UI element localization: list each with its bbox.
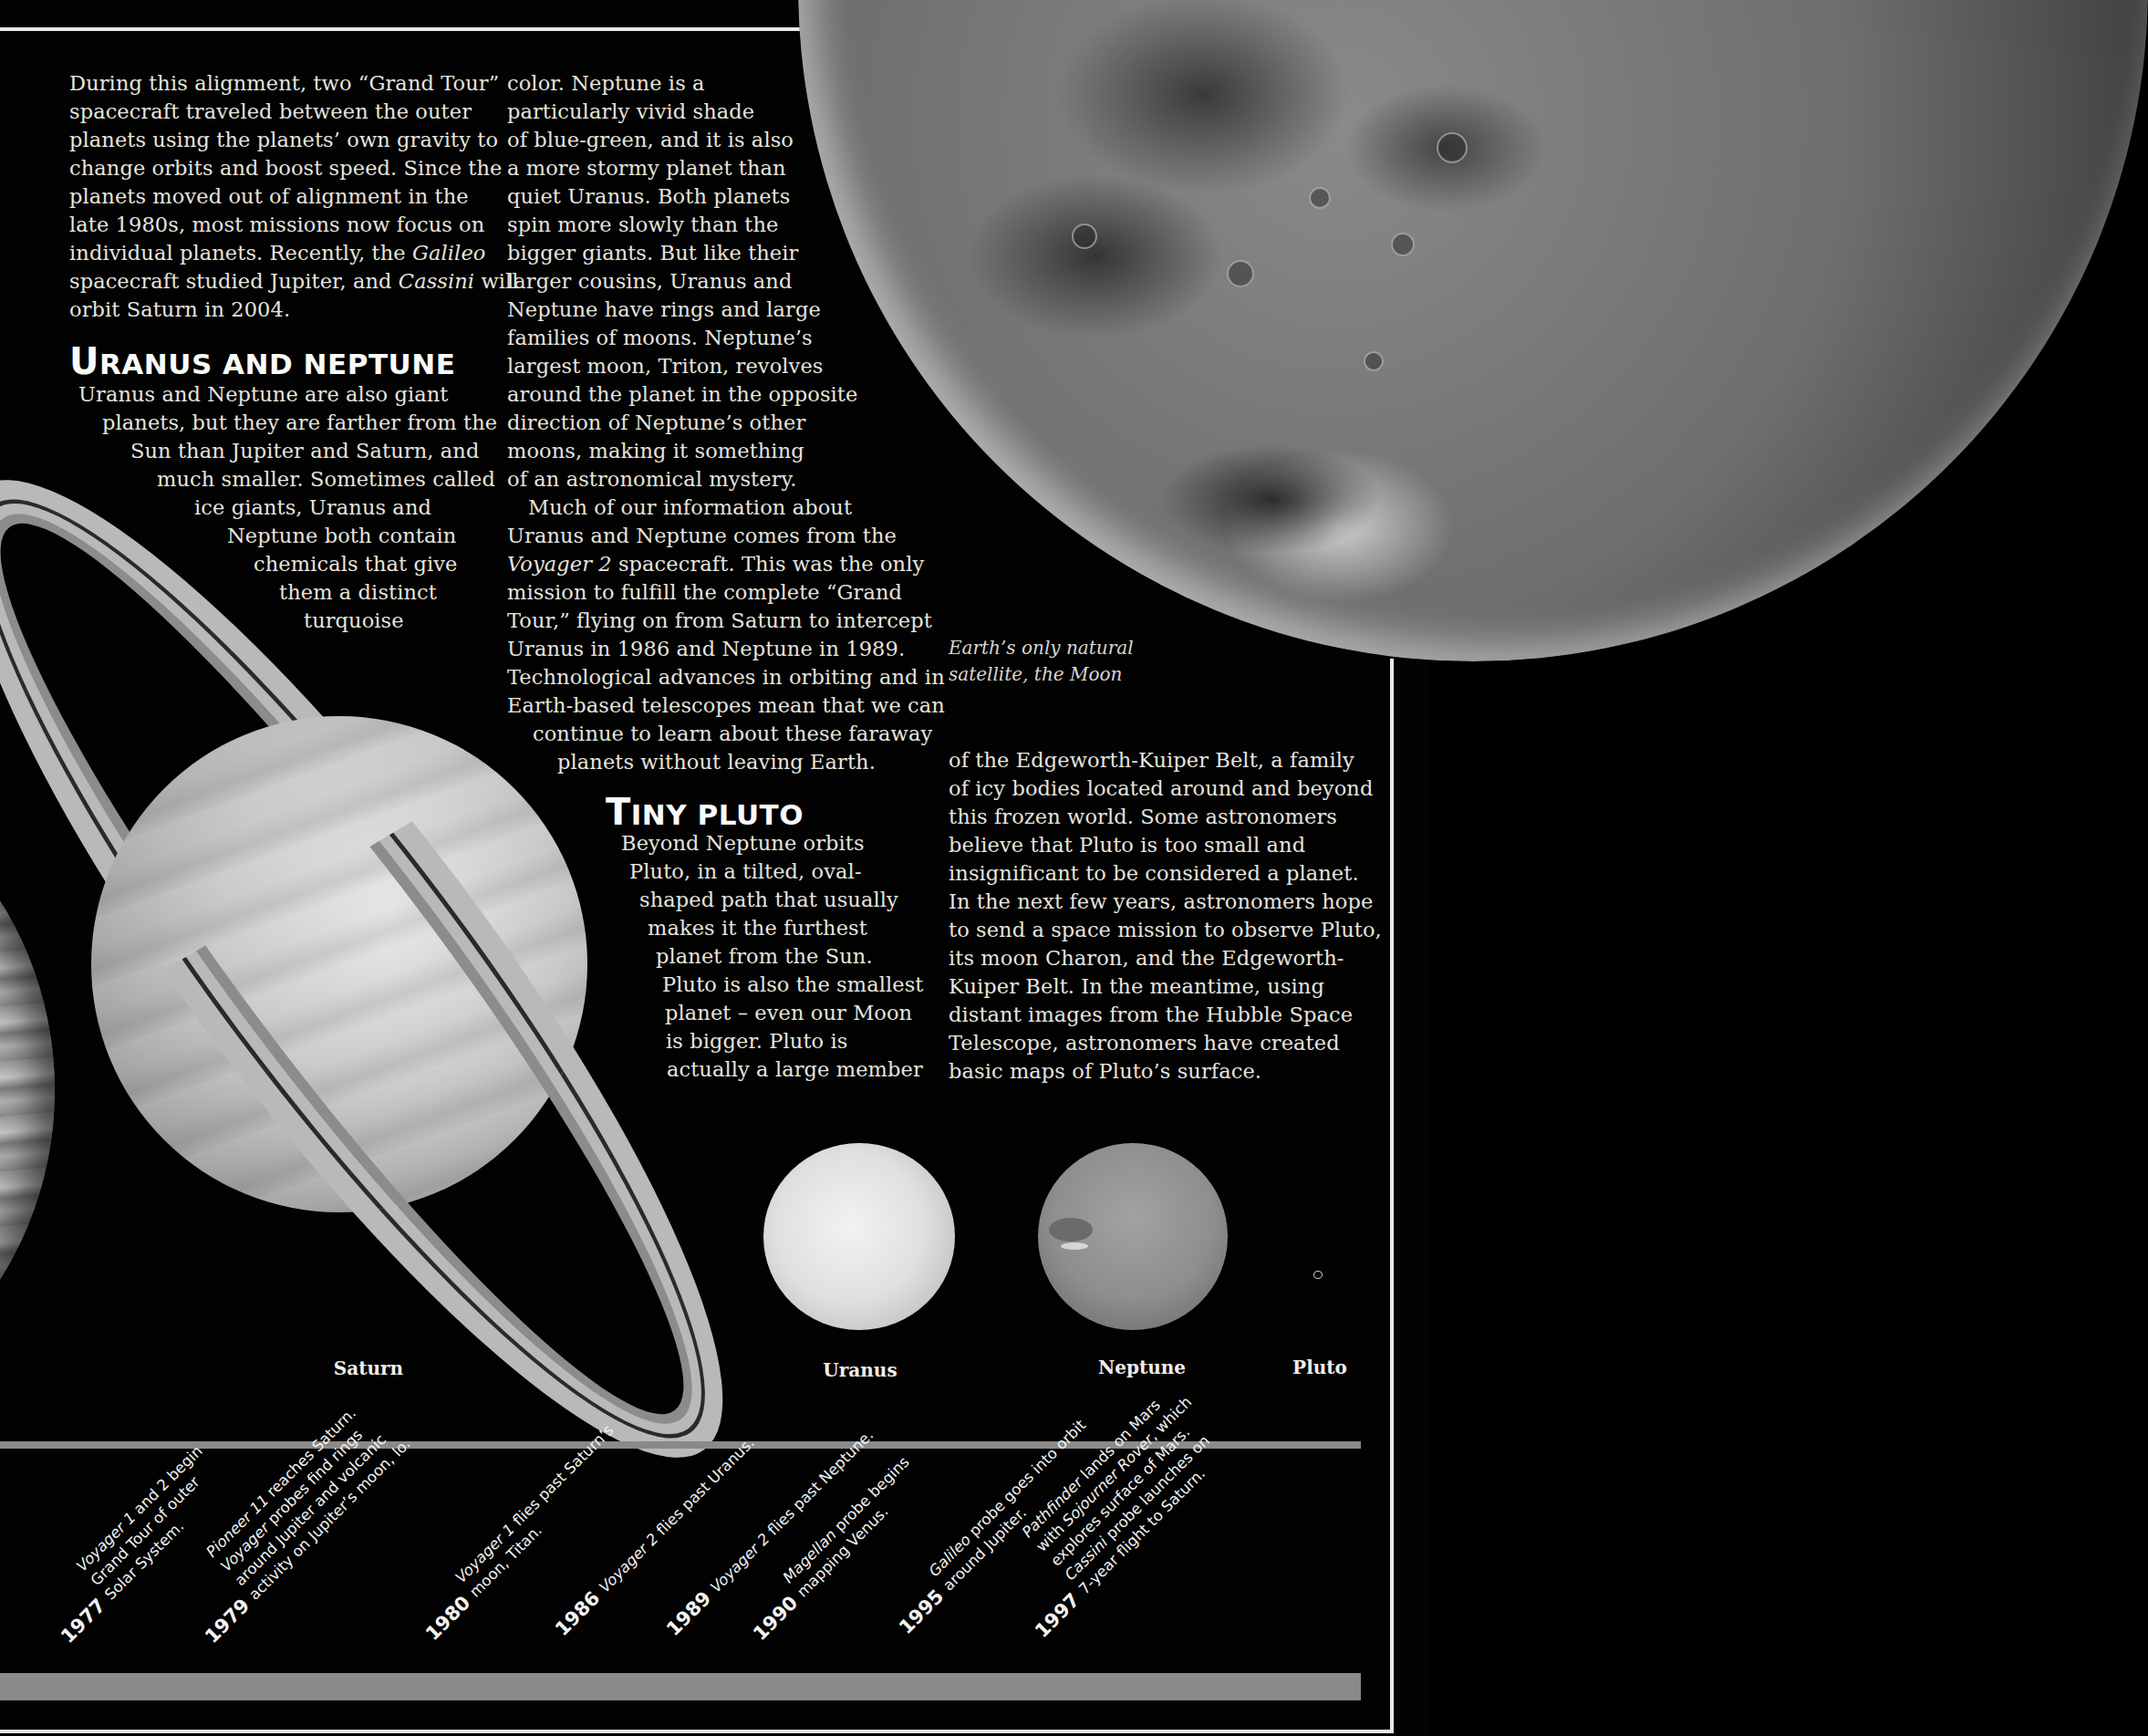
pluto-label: Pluto bbox=[1292, 1357, 1347, 1378]
neptune-great-dark-spot bbox=[1049, 1218, 1093, 1242]
text-line: a more stormy planet than bbox=[507, 154, 945, 182]
text-line: its moon Charon, and the Edgeworth- bbox=[949, 944, 1382, 972]
text-line: shaped path that usually bbox=[0, 886, 924, 914]
moon-crater bbox=[1391, 233, 1415, 256]
text-line: Voyager 2 spacecraft. This was the only bbox=[507, 550, 945, 578]
galileo-italic: Galileo bbox=[412, 241, 486, 265]
text-line: Sun than Jupiter and Saturn, and bbox=[0, 437, 497, 465]
text-line: much smaller. Sometimes called bbox=[0, 465, 497, 494]
heading-rest: INY PLUTO bbox=[631, 798, 804, 831]
text-line: orbit Saturn in 2004. bbox=[69, 296, 519, 324]
text-line: spacecraft traveled between the outer bbox=[69, 98, 519, 126]
text-line: bigger giants. But like their bbox=[507, 239, 945, 267]
timeline-year: 1980 bbox=[421, 1592, 474, 1645]
text-line: late 1980s, most missions now focus on bbox=[69, 211, 519, 239]
text-line: families of moons. Neptune’s bbox=[507, 324, 945, 352]
text-line: them a distinct bbox=[0, 578, 497, 607]
neptune-cloud bbox=[1061, 1242, 1088, 1250]
text-line: Kuiper Belt. In the meantime, using bbox=[949, 972, 1382, 1001]
cassini-italic: Cassini bbox=[399, 269, 474, 293]
text-line: During this alignment, two “Grand Tour” bbox=[69, 69, 519, 98]
heading-tiny-pluto: TINY PLUTO bbox=[606, 791, 804, 833]
text-line: planets without leaving Earth. bbox=[507, 748, 945, 776]
timeline-year: 1977 bbox=[57, 1595, 109, 1648]
text-line: is bigger. Pluto is bbox=[0, 1027, 924, 1055]
pluto-image bbox=[1313, 1271, 1323, 1279]
voyager2-italic: Voyager 2 bbox=[507, 552, 612, 576]
timeline-description: Pioneer 11 reaches Saturn.Voyager probes… bbox=[202, 1392, 415, 1605]
moon-crater bbox=[1364, 351, 1384, 371]
text-line: believe that Pluto is too small and bbox=[949, 831, 1382, 859]
text-line: largest moon, Triton, revolves bbox=[507, 352, 945, 380]
caption-line: satellite, the Moon bbox=[949, 661, 1134, 688]
column2-pluto-paragraph: Beyond Neptune orbits Pluto, in a tilted… bbox=[0, 829, 924, 1084]
uranus-label: Uranus bbox=[823, 1359, 897, 1381]
text-span: spacecraft. This was the only bbox=[612, 552, 925, 576]
timeline-year: 1979 bbox=[201, 1595, 254, 1648]
text-line: planet – even our Moon bbox=[0, 999, 924, 1027]
saturn-label: Saturn bbox=[334, 1357, 403, 1379]
moon-crater bbox=[1072, 223, 1097, 249]
text-line: individual planets. Recently, the Galile… bbox=[69, 239, 519, 267]
timeline-year: 1995 bbox=[895, 1585, 948, 1638]
text-line: Earth-based telescopes mean that we can bbox=[507, 691, 945, 720]
text-line: color. Neptune is a bbox=[507, 69, 945, 98]
text-line: to send a space mission to observe Pluto… bbox=[949, 916, 1382, 944]
text-line: Uranus in 1986 and Neptune in 1989. bbox=[507, 635, 945, 663]
text-line: planet from the Sun. bbox=[0, 942, 924, 971]
text-line: this frozen world. Some astronomers bbox=[949, 803, 1382, 831]
text-line: Tour,” flying on from Saturn to intercep… bbox=[507, 607, 945, 635]
text-line: spin more slowly than the bbox=[507, 211, 945, 239]
timeline-description: Magellan probe beginsmapping Venus. bbox=[779, 1452, 929, 1602]
text-line: Technological advances in orbiting and i… bbox=[507, 663, 945, 691]
text-line: of icy bodies located around and beyond bbox=[949, 774, 1382, 803]
text-line: planets using the planets’ own gravity t… bbox=[69, 126, 519, 154]
column2-neptune-paragraph: color. Neptune is a particularly vivid s… bbox=[507, 69, 945, 776]
text-line: Uranus and Neptune are also giant bbox=[0, 380, 497, 409]
text-line: insignificant to be considered a planet. bbox=[949, 859, 1382, 888]
heading-uranus-and-neptune: URANUS AND NEPTUNE bbox=[69, 340, 455, 382]
timeline-year: 1990 bbox=[749, 1592, 802, 1645]
timeline-bottom-bar bbox=[0, 1673, 1361, 1700]
moon-crater bbox=[1309, 187, 1331, 209]
text-line: change orbits and boost speed. Since the bbox=[69, 154, 519, 182]
timeline-entry-1980: 1980Voyager 1 flies past Saturn’smoon, T… bbox=[409, 1420, 633, 1645]
text-line: Beyond Neptune orbits bbox=[0, 829, 924, 858]
caption-line: Earth’s only natural bbox=[949, 635, 1134, 661]
text-line: Pluto, in a tilted, oval- bbox=[0, 858, 924, 886]
text-line: mission to fulfill the complete “Grand bbox=[507, 578, 945, 607]
text-span: spacecraft studied Jupiter, and bbox=[69, 269, 399, 293]
text-line: chemicals that give bbox=[0, 550, 497, 578]
text-line: Neptune both contain bbox=[0, 522, 497, 550]
timeline-year: 1986 bbox=[551, 1587, 604, 1640]
text-line: planets moved out of alignment in the bbox=[69, 182, 519, 211]
frame-right-rule bbox=[1390, 659, 1394, 1733]
text-line: spacecraft studied Jupiter, and Cassini … bbox=[69, 267, 519, 296]
text-span: individual planets. Recently, the bbox=[69, 241, 412, 265]
moon-crater bbox=[1227, 260, 1254, 287]
moon-caption: Earth’s only natural satellite, the Moon bbox=[949, 635, 1134, 688]
timeline-year: 1989 bbox=[662, 1587, 715, 1640]
text-line: Neptune have rings and large bbox=[507, 296, 945, 324]
heading-initial: T bbox=[606, 791, 631, 833]
moon-crater bbox=[1437, 132, 1468, 163]
text-line: planets, but they are farther from the bbox=[0, 409, 497, 437]
moon-image bbox=[798, 0, 2148, 661]
column3-pluto-paragraph: of the Edgeworth-Kuiper Belt, a family o… bbox=[949, 746, 1382, 1086]
text-line: basic maps of Pluto’s surface. bbox=[949, 1057, 1382, 1086]
text-line: makes it the furthest bbox=[0, 914, 924, 942]
text-line: distant images from the Hubble Space bbox=[949, 1001, 1382, 1029]
text-line: Much of our information about bbox=[507, 494, 945, 522]
text-line: Uranus and Neptune comes from the bbox=[507, 522, 945, 550]
column1-uranus-neptune-paragraph: Uranus and Neptune are also giant planet… bbox=[0, 380, 497, 635]
heading-initial: U bbox=[69, 340, 99, 382]
text-line: larger cousins, Uranus and bbox=[507, 267, 945, 296]
frame-top-rule bbox=[0, 27, 807, 31]
frame-bottom-rule bbox=[0, 1730, 1394, 1733]
text-line: ice giants, Uranus and bbox=[0, 494, 497, 522]
heading-rest: RANUS AND NEPTUNE bbox=[99, 348, 455, 380]
text-line: actually a large member bbox=[0, 1055, 924, 1084]
text-line: of blue-green, and it is also bbox=[507, 126, 945, 154]
timeline-year: 1997 bbox=[1031, 1589, 1084, 1642]
text-line: turquoise bbox=[0, 607, 497, 635]
